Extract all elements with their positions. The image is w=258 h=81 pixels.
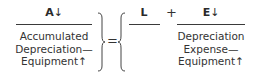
equity-line-2: Expense—: [172, 43, 250, 56]
equity-header: E↓: [177, 6, 245, 19]
assets-header: A↓: [16, 6, 92, 19]
assets-line-2: Depreciation—: [10, 43, 98, 56]
equity-down-arrow-icon: ↓: [210, 6, 219, 19]
equity-letter: E: [203, 6, 211, 19]
equity-line-1: Depreciation: [172, 30, 250, 43]
liabilities-underline: [129, 24, 160, 25]
assets-letter: A: [45, 6, 54, 19]
equity-account: Depreciation Expense— Equipment↑: [172, 30, 250, 68]
liabilities-header: L: [129, 6, 159, 19]
assets-down-arrow-icon: ↓: [54, 6, 63, 19]
assets-line-3: Equipment↑: [10, 55, 98, 68]
equity-line-3: Equipment↑: [172, 55, 250, 68]
equity-underline: [177, 24, 245, 25]
right-brace-icon: [96, 12, 106, 72]
plus-sign: +: [166, 5, 177, 20]
left-brace-icon: [117, 12, 127, 72]
assets-line-1: Accumulated: [10, 30, 98, 43]
assets-underline: [16, 24, 92, 25]
assets-account: Accumulated Depreciation— Equipment↑: [10, 30, 98, 68]
